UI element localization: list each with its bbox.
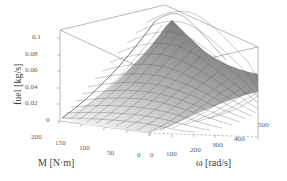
- fuel-consumption-surface-figure: 0.1 0.08 0.06 0.04 0.02 0 200 150 100 50…: [0, 0, 287, 181]
- z-tick-0-1: 0.1: [32, 34, 41, 41]
- z-axis-title: fuel [kg/s]: [13, 64, 23, 105]
- m-tick-150: 150: [55, 140, 66, 147]
- omega-tick-500: 500: [258, 122, 269, 129]
- omega-tick-100: 100: [166, 151, 177, 158]
- z-tick-0-02: 0.02: [25, 100, 38, 107]
- omega-tick-200: 200: [190, 147, 201, 154]
- m-tick-200: 200: [31, 134, 42, 141]
- omega-tick-300: 300: [212, 142, 223, 149]
- plot-canvas: [0, 0, 287, 181]
- m-tick-0: 0: [137, 152, 141, 159]
- surface-highlight: [62, 20, 258, 133]
- z-tick-0-08: 0.08: [25, 51, 38, 58]
- omega-axis-title: ω [rad/s]: [196, 158, 231, 168]
- m-tick-50: 50: [107, 150, 114, 157]
- z-tick-0: 0: [46, 117, 50, 124]
- fuel-surface-mesh: [62, 11, 258, 133]
- z-tick-0-04: 0.04: [25, 84, 38, 91]
- m-tick-100: 100: [79, 145, 90, 152]
- omega-tick-400: 400: [234, 136, 245, 143]
- m-axis-title: M [N·m]: [38, 158, 74, 168]
- z-axis-ticks: [57, 38, 60, 121]
- omega-tick-0: 0: [150, 152, 154, 159]
- z-tick-0-06: 0.06: [25, 67, 38, 74]
